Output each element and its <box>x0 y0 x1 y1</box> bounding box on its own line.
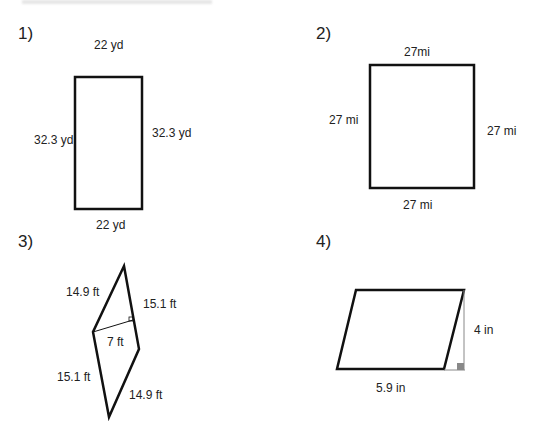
parallelogram-height-label: 4 in <box>474 323 493 337</box>
parallelogram-base-label: 5.9 in <box>376 381 405 395</box>
rhombus-bottom-left-label: 15.1 ft <box>57 370 90 384</box>
square-left-label: 27 mi <box>329 113 358 127</box>
rhombus-bottom-right-label: 14.9 ft <box>129 388 162 402</box>
rhombus-top-left-label: 14.9 ft <box>66 285 99 299</box>
parallelogram-figure <box>337 290 464 369</box>
rect-top-label: 22 yd <box>94 38 123 52</box>
rhombus-top-right-label: 15.1 ft <box>143 297 176 311</box>
rect-left-label: 32.3 yd <box>34 133 73 147</box>
square-right-label: 27 mi <box>487 124 516 138</box>
rectangle-figure <box>75 77 142 209</box>
rect-right-label: 32.3 yd <box>152 126 191 140</box>
right-angle-marker <box>457 363 464 370</box>
square-top-label: 27mi <box>404 45 430 59</box>
rhombus-height-label: 7 ft <box>107 335 124 349</box>
square-bottom-label: 27 mi <box>403 198 432 212</box>
rect-bottom-label: 22 yd <box>96 218 125 232</box>
geometry-figures <box>0 0 536 430</box>
square-figure <box>370 65 474 188</box>
